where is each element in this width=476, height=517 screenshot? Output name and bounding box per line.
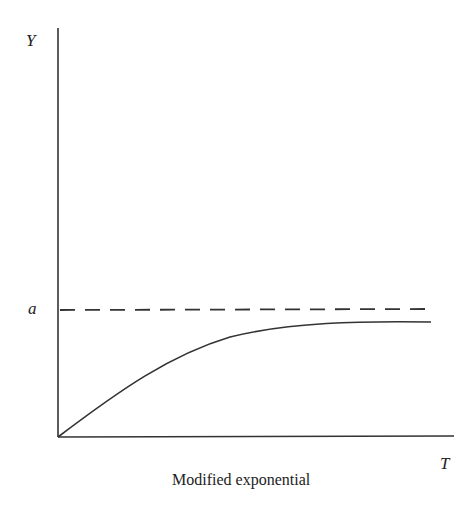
x-axis [58, 436, 454, 437]
modified-exponential-chart: Y a T Modified exponential [0, 0, 476, 517]
modified-exponential-curve [58, 322, 431, 437]
asymptote-line [60, 309, 432, 310]
chart-caption: Modified exponential [172, 471, 311, 489]
x-axis-label: T [440, 454, 451, 473]
y-axis-label: Y [26, 31, 37, 50]
asymptote-label: a [28, 299, 37, 318]
